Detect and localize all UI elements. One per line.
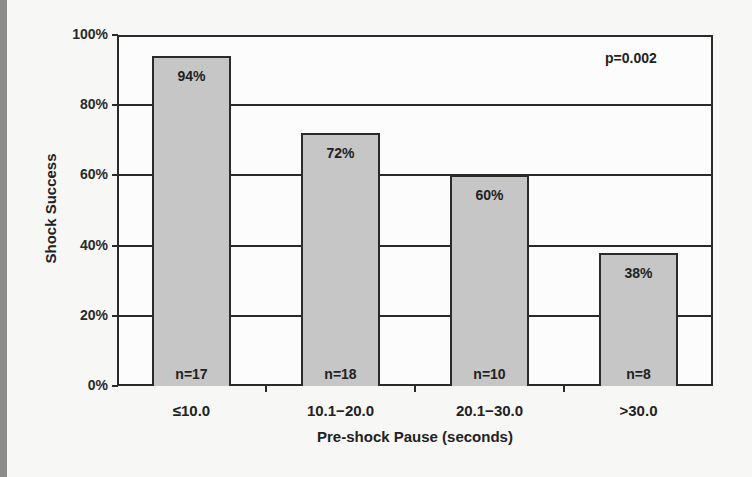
p-value-annotation: p=0.002 — [605, 50, 657, 66]
x-category-label: ≤10.0 — [122, 402, 262, 419]
x-category-label: 10.1−20.0 — [271, 402, 411, 419]
x-tick-mark — [563, 386, 565, 392]
x-axis-title: Pre-shock Pause (seconds) — [265, 428, 565, 445]
y-tick-mark — [112, 104, 118, 106]
bar-value-label: 72% — [303, 145, 378, 161]
bar-value-label: 94% — [154, 68, 229, 84]
bar-sample-size-label: n=18 — [303, 366, 378, 382]
y-tick-mark — [112, 174, 118, 176]
y-tick-label: 80% — [48, 96, 108, 112]
y-tick-mark — [112, 385, 118, 387]
bar: 60%n=10 — [450, 175, 529, 386]
x-tick-mark — [414, 386, 416, 392]
bar: 94%n=17 — [152, 56, 231, 386]
bar-sample-size-label: n=17 — [154, 366, 229, 382]
x-tick-mark — [265, 386, 267, 392]
bar-value-label: 38% — [601, 265, 676, 281]
bar-value-label: 60% — [452, 187, 527, 203]
y-tick-mark — [112, 245, 118, 247]
x-category-label: 20.1−30.0 — [420, 402, 560, 419]
y-axis-title: Shock Success — [42, 139, 59, 279]
y-tick-mark — [112, 315, 118, 317]
bar: 38%n=8 — [599, 253, 678, 386]
bar-sample-size-label: n=8 — [601, 366, 676, 382]
left-edge-strip — [0, 0, 7, 477]
bar-sample-size-label: n=10 — [452, 366, 527, 382]
x-category-label: >30.0 — [569, 402, 709, 419]
y-tick-label: 20% — [48, 307, 108, 323]
y-tick-mark — [112, 34, 118, 36]
y-tick-label: 0% — [48, 377, 108, 393]
y-tick-label: 100% — [48, 26, 108, 42]
bar: 72%n=18 — [301, 133, 380, 386]
